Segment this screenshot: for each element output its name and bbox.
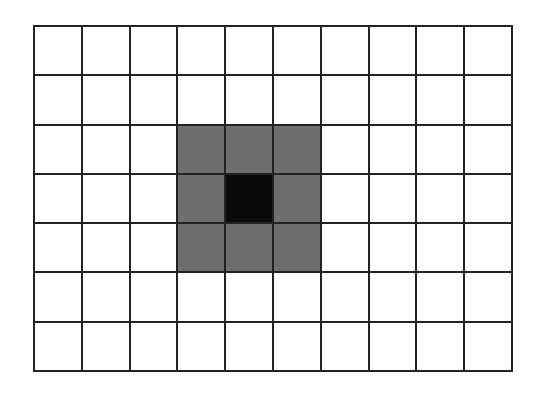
grid-cell <box>415 74 463 123</box>
grid-cell <box>33 271 81 320</box>
grid-cell <box>81 25 129 74</box>
grid-cell <box>81 124 129 173</box>
grid-cell <box>463 25 511 74</box>
grid-cell <box>368 271 416 320</box>
grid-cell-neighbor <box>176 124 224 173</box>
grid-cell <box>368 222 416 271</box>
grid-cell <box>463 124 511 173</box>
grid-cell <box>129 25 177 74</box>
grid-cell <box>272 271 320 320</box>
grid-cell <box>463 271 511 320</box>
grid-cell <box>81 74 129 123</box>
grid-cell <box>129 124 177 173</box>
grid-cell <box>415 222 463 271</box>
grid-cell <box>272 25 320 74</box>
grid-cell <box>129 74 177 123</box>
grid-cell-neighbor <box>224 124 272 173</box>
grid-cell-neighbor <box>176 222 224 271</box>
grid-cell <box>224 321 272 370</box>
pixel-grid <box>33 25 513 372</box>
grid-cell-neighbor <box>272 173 320 222</box>
grid-cell <box>33 25 81 74</box>
grid-cell <box>176 271 224 320</box>
grid-cell <box>415 271 463 320</box>
grid-cell <box>463 173 511 222</box>
grid-cell <box>320 74 368 123</box>
grid-cell <box>320 271 368 320</box>
grid-cell <box>415 124 463 173</box>
grid-cell <box>368 321 416 370</box>
grid-cell <box>33 173 81 222</box>
grid-cell <box>463 321 511 370</box>
grid-cell <box>224 74 272 123</box>
grid-cell <box>320 124 368 173</box>
grid-cell-neighbor <box>272 222 320 271</box>
grid-cell <box>176 321 224 370</box>
grid-cell <box>415 25 463 74</box>
grid-cell <box>320 222 368 271</box>
grid-cell <box>33 321 81 370</box>
grid-cell <box>368 173 416 222</box>
grid-cell <box>368 124 416 173</box>
grid-cell-neighbor <box>176 173 224 222</box>
grid-cell <box>33 222 81 271</box>
grid-cell <box>129 173 177 222</box>
grid-cell <box>81 222 129 271</box>
grid-cell <box>176 74 224 123</box>
grid-cell <box>129 271 177 320</box>
grid-cell <box>320 25 368 74</box>
grid-cell <box>415 173 463 222</box>
grid-cell <box>33 74 81 123</box>
grid-cell <box>463 74 511 123</box>
grid-cell <box>129 321 177 370</box>
grid-cell <box>224 271 272 320</box>
grid-cell <box>129 222 177 271</box>
grid-cell <box>368 74 416 123</box>
grid-cell <box>81 321 129 370</box>
grid-cell <box>272 321 320 370</box>
grid-cell-neighbor <box>224 222 272 271</box>
grid-cell <box>368 25 416 74</box>
grid-cell <box>33 124 81 173</box>
grid-cell <box>463 222 511 271</box>
grid-cell <box>224 25 272 74</box>
grid-cell <box>320 321 368 370</box>
grid-cell <box>176 25 224 74</box>
grid-cell <box>81 173 129 222</box>
grid-cell <box>272 74 320 123</box>
grid-cell-neighbor <box>272 124 320 173</box>
grid-cell-center <box>224 173 272 222</box>
grid-cell <box>320 173 368 222</box>
grid-cell <box>415 321 463 370</box>
grid-cell <box>81 271 129 320</box>
